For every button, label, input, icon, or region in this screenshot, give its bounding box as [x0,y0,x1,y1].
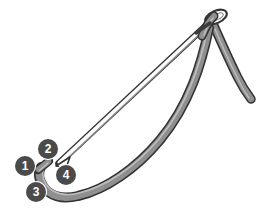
callout-badge-4[interactable]: 4 [56,165,76,185]
callout-badge-1[interactable]: 1 [15,156,35,176]
callout-badge-2[interactable]: 2 [38,139,58,159]
thread-free-end [214,26,251,99]
diagram-canvas: 1 2 3 4 [0,0,264,222]
callout-badge-3[interactable]: 3 [26,182,46,202]
